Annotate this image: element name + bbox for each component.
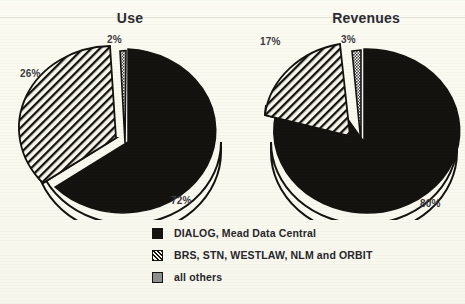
pie-use-label-black: 72% <box>171 195 192 206</box>
legend-item-dialog: DIALOG, Mead Data Central <box>152 222 452 244</box>
pie-revenues-label-gray: 3% <box>341 34 356 45</box>
pie-revenues-label-black: 80% <box>420 198 441 209</box>
pie-chart-revenues: 17% 3% 80% <box>248 30 465 224</box>
gray-swatch-icon <box>152 272 163 283</box>
legend-label-dialog: DIALOG, Mead Data Central <box>174 227 316 239</box>
pie-use-label-gray: 2% <box>107 34 122 45</box>
chart-legend: DIALOG, Mead Data Central BRS, STN, WEST… <box>152 222 452 288</box>
chart-title-use: Use <box>117 10 143 26</box>
pie-use-label-hatch: 26% <box>20 68 41 79</box>
legend-item-all-others: all others <box>152 266 452 288</box>
pie-revenues-svg <box>248 30 465 220</box>
chart-title-revenues: Revenues <box>332 10 400 26</box>
pie-use-slice-gray <box>120 51 126 144</box>
chart-titles: Use Revenues <box>0 0 465 34</box>
pie-revenues-label-hatch: 17% <box>260 36 281 47</box>
pie-chart-use: 26% 2% 72% <box>12 30 242 224</box>
pie-use-svg <box>12 30 242 220</box>
solid-black-swatch-icon <box>152 228 163 239</box>
legend-item-brs: BRS, STN, WESTLAW, NLM and ORBIT <box>152 244 452 266</box>
legend-label-all-others: all others <box>174 271 222 283</box>
diagonal-hatch-swatch-icon <box>152 250 163 261</box>
legend-label-brs: BRS, STN, WESTLAW, NLM and ORBIT <box>174 249 372 261</box>
pie-chart-figure: Use Revenues <box>0 0 465 304</box>
